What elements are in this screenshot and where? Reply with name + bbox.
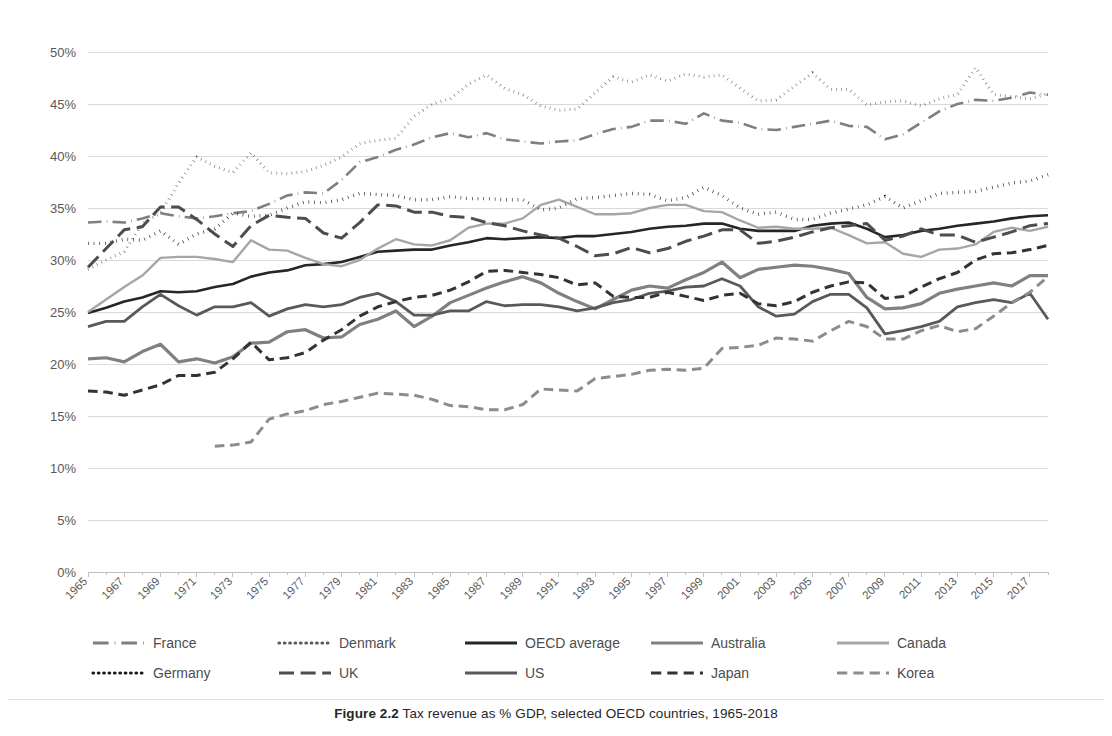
y-axis-tick-label: 30%: [50, 253, 76, 268]
legend-label: OECD average: [525, 635, 620, 651]
x-axis-tick-group: 2017: [1005, 575, 1032, 602]
x-axis-tick-label: 1981: [353, 575, 380, 602]
legend-swatch-line: [91, 636, 147, 650]
x-axis-tick-group: 2005: [787, 575, 814, 602]
y-axis-tick-label: 35%: [50, 201, 76, 216]
legend-item-denmark[interactable]: Denmark: [277, 635, 463, 651]
y-axis-tick-label: 25%: [50, 305, 76, 320]
legend-item-canada[interactable]: Canada: [835, 635, 1021, 651]
legend-item-germany[interactable]: Germany: [91, 665, 277, 681]
legend-swatch: [91, 636, 147, 650]
x-axis-tick-label: 1985: [425, 575, 452, 602]
chart-plot-svg: 0%5%10%15%20%25%30%35%40%45%50%196519671…: [0, 0, 1112, 620]
legend-item-oecd-average[interactable]: OECD average: [463, 635, 649, 651]
x-axis-tick-label: 1977: [280, 575, 307, 602]
x-axis-tick-label: 1983: [389, 575, 416, 602]
x-axis-tick-group: 2011: [897, 575, 923, 601]
legend-swatch: [649, 636, 705, 650]
x-axis-tick-group: 1991: [534, 575, 561, 602]
x-axis-tick-label: 2003: [751, 575, 778, 602]
legend-item-korea[interactable]: Korea: [835, 665, 1021, 681]
x-axis-tick-group: 1975: [244, 575, 271, 602]
x-axis-tick-label: 1993: [570, 575, 597, 602]
legend-swatch: [463, 636, 519, 650]
legend-swatch-line: [649, 636, 705, 650]
series-line-australia: [88, 262, 1048, 363]
legend-row: FranceDenmarkOECD averageAustraliaCanada: [0, 628, 1112, 658]
x-axis-tick-label: 2005: [787, 575, 814, 602]
x-axis-tick-label: 1997: [642, 575, 669, 602]
x-axis-tick-group: 1971: [172, 575, 199, 602]
x-axis-tick-group: 2007: [824, 575, 851, 602]
x-axis-tick-group: 2001: [715, 575, 742, 602]
legend-swatch-line: [463, 636, 519, 650]
legend-label: Germany: [153, 665, 211, 681]
y-axis-tick-label: 10%: [50, 461, 76, 476]
legend-swatch-line: [835, 636, 891, 650]
legend-label: France: [153, 635, 197, 651]
x-axis-tick-group: 1993: [570, 575, 597, 602]
x-axis-tick-label: 2015: [968, 575, 995, 602]
legend-swatch-line: [649, 666, 705, 680]
legend-swatch-line: [277, 636, 333, 650]
legend-item-uk[interactable]: UK: [277, 665, 463, 681]
y-axis-tick-label: 20%: [50, 357, 76, 372]
legend-item-japan[interactable]: Japan: [649, 665, 835, 681]
legend-label: Korea: [897, 665, 934, 681]
legend-label: Australia: [711, 635, 765, 651]
x-axis-tick-label: 1969: [135, 575, 162, 602]
legend-swatch: [463, 666, 519, 680]
x-axis-tick-group: 2013: [932, 575, 959, 602]
x-axis-tick-label: 1967: [99, 575, 126, 602]
legend-swatch: [649, 666, 705, 680]
x-axis-tick-group: 2015: [968, 575, 995, 602]
y-axis-tick-label: 50%: [50, 45, 76, 60]
x-axis-tick-group: 1979: [316, 575, 343, 602]
x-axis-tick-label: 1991: [534, 575, 561, 602]
legend-label: Japan: [711, 665, 749, 681]
legend-label: Denmark: [339, 635, 396, 651]
series-line-japan: [88, 245, 1048, 395]
y-axis-tick-label: 15%: [50, 409, 76, 424]
y-axis-tick-label: 45%: [50, 97, 76, 112]
legend-divider: [8, 699, 1104, 700]
x-axis-tick-group: 2003: [751, 575, 778, 602]
legend-swatch-line: [91, 666, 147, 680]
x-axis-tick-group: 1999: [679, 575, 706, 602]
legend-label: Canada: [897, 635, 946, 651]
x-axis-tick-label: 2013: [932, 575, 959, 602]
series-line-canada: [88, 200, 1048, 312]
x-axis-tick-group: 1987: [461, 575, 488, 602]
caption-text: Tax revenue as % GDP, selected OECD coun…: [403, 706, 778, 721]
x-axis-tick-group: 1989: [498, 575, 525, 602]
legend-item-us[interactable]: US: [463, 665, 649, 681]
legend-swatch-line: [277, 666, 333, 680]
x-axis-tick-label: 1999: [679, 575, 706, 602]
x-axis-tick-group: 1997: [642, 575, 669, 602]
legend-swatch: [91, 666, 147, 680]
x-axis-tick-label: 2011: [897, 575, 923, 601]
legend-item-france[interactable]: France: [91, 635, 277, 651]
legend-label: US: [525, 665, 544, 681]
x-axis-tick-label: 1989: [498, 575, 525, 602]
x-axis-tick-label: 1975: [244, 575, 271, 602]
legend-swatch: [277, 636, 333, 650]
line-chart: 0%5%10%15%20%25%30%35%40%45%50%196519671…: [0, 0, 1112, 620]
y-axis-tick-label: 40%: [50, 149, 76, 164]
x-axis-tick-group: 1967: [99, 575, 126, 602]
y-axis-tick-label: 0%: [57, 565, 76, 580]
caption-label: Figure 2.2: [334, 706, 399, 721]
y-axis-tick-label: 5%: [57, 513, 76, 528]
series-line-denmark: [88, 68, 1048, 270]
x-axis-tick-label: 1973: [208, 575, 235, 602]
x-axis-tick-group: 1969: [135, 575, 162, 602]
legend-label: UK: [339, 665, 358, 681]
x-axis-tick-label: 2017: [1005, 575, 1032, 602]
x-axis-tick-label: 2001: [715, 575, 742, 602]
x-axis-tick-group: 2009: [860, 575, 887, 602]
legend-item-australia[interactable]: Australia: [649, 635, 835, 651]
legend-row: GermanyUKUSJapanKorea: [0, 658, 1112, 688]
x-axis-tick-group: 1983: [389, 575, 416, 602]
legend-swatch-line: [463, 666, 519, 680]
x-axis-tick-label: 1995: [606, 575, 633, 602]
